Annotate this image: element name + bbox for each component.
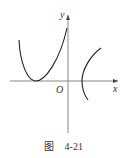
y-axis-label: y [59,9,65,20]
origin-label: O [56,84,63,95]
left-curve [19,28,67,81]
function-graph: y O x [0,0,127,158]
right-curve [82,48,101,100]
figure-caption: 图 4-21 [0,138,127,153]
x-axis-label: x [112,83,118,94]
caption-number: 4-21 [65,141,83,152]
caption-prefix: 图 [44,141,54,152]
